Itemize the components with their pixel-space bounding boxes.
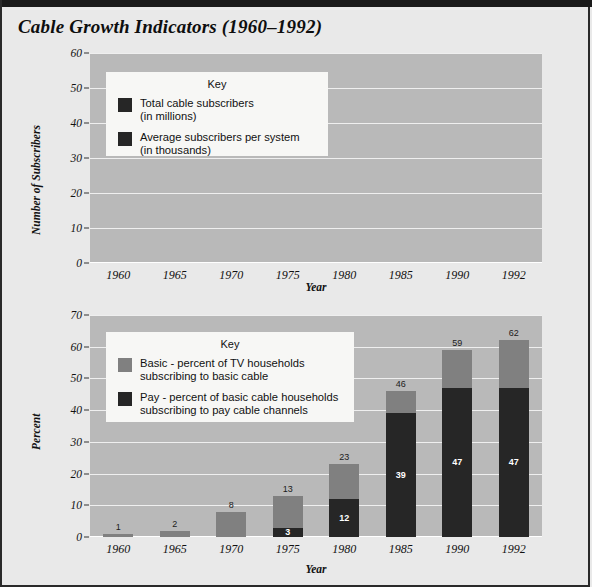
legend-label-total-cable-subscribers: Total cable subscribers [140, 97, 254, 110]
gridline [90, 505, 542, 506]
legend-percent: Key Basic - percent of TV households sub… [106, 332, 354, 422]
x-axis-tick: 1975 [276, 542, 300, 557]
bar-segment-basic [216, 512, 246, 537]
legend-item-average-subscribers-per-system: Average subscribers per system (in thous… [106, 131, 328, 158]
x-axis-tick: 1980 [332, 542, 356, 557]
bar-value-label-basic: 59 [452, 338, 462, 348]
y-axis-tick: 20 [71, 468, 83, 480]
bar-stacked: 3 [273, 496, 303, 537]
y-axis-tick: 10 [71, 499, 83, 511]
bar-value-label-basic: 62 [509, 328, 519, 338]
y-axis-tick-mark [84, 441, 89, 442]
legend-swatch-average-subscribers-per-system [118, 132, 132, 146]
bar-value-label-pay: 3 [285, 527, 290, 537]
bar-value-label-basic: 1 [116, 522, 121, 532]
x-axis-tick: 1965 [163, 542, 187, 557]
x-axis-tick: 1992 [502, 542, 526, 557]
y-axis-tick: 0 [76, 531, 82, 543]
bar-value-label-pay: 39 [396, 470, 406, 480]
legend-item-pay: Pay - percent of basic cable households … [106, 391, 354, 418]
x-axis-tick: 1985 [389, 542, 413, 557]
y-axis-tick: 40 [71, 404, 83, 416]
bar-stacked: 47 [499, 340, 529, 537]
bar-segment-pay: 47 [442, 388, 472, 537]
x-axis-label-percent: Year [305, 563, 326, 575]
bar-segment-pay: 39 [386, 413, 416, 537]
y-axis-tick-mark [84, 315, 89, 316]
legend-title-subscribers: Key [106, 78, 328, 90]
y-axis-tick: 30 [71, 436, 83, 448]
bar-value-label-basic: 13 [283, 484, 293, 494]
bar-stacked [103, 534, 133, 537]
bar-value-label-pay: 47 [452, 457, 462, 467]
legend-sublabel-pay: subscribing to pay cable channels [140, 404, 338, 417]
legend-title-percent: Key [106, 338, 354, 350]
legend-swatch-basic [118, 358, 132, 372]
bar-segment-basic [160, 531, 190, 537]
bar-value-label-basic: 23 [339, 452, 349, 462]
y-axis-tick-mark [84, 505, 89, 506]
legend-label-average-subscribers-per-system: Average subscribers per system [140, 131, 300, 144]
legend-sublabel-average-subscribers-per-system: (in thousands) [140, 144, 300, 157]
legend-subscribers: Key Total cable subscribers (in millions… [106, 72, 328, 156]
y-axis-tick: 60 [71, 341, 83, 353]
bar-stacked [160, 531, 190, 537]
y-axis-tick-mark [84, 346, 89, 347]
legend-swatch-pay [118, 392, 132, 406]
gridline [90, 315, 542, 316]
legend-label-basic: Basic - percent of TV households [140, 357, 305, 370]
y-axis-tick-mark [84, 410, 89, 411]
gridline [90, 442, 542, 443]
bar-stacked: 39 [386, 391, 416, 537]
y-axis-tick-mark [84, 537, 89, 538]
bar-stacked [216, 512, 246, 537]
bar-value-label-pay: 47 [509, 457, 519, 467]
gridline [90, 474, 542, 475]
bar-segment-basic [103, 534, 133, 537]
legend-swatch-total-cable-subscribers [118, 98, 132, 112]
bar-segment-pay: 47 [499, 388, 529, 537]
legend-sublabel-basic: subscribing to basic cable [140, 370, 305, 383]
x-axis-tick: 1970 [219, 542, 243, 557]
bar-value-label-basic: 46 [396, 379, 406, 389]
bar-stacked: 12 [329, 464, 359, 537]
legend-label-pay: Pay - percent of basic cable households [140, 391, 338, 404]
legend-sublabel-total-cable-subscribers: (in millions) [140, 110, 254, 123]
legend-item-basic: Basic - percent of TV households subscri… [106, 357, 354, 384]
bar-segment-pay: 3 [273, 528, 303, 538]
y-axis-tick: 50 [71, 372, 83, 384]
y-axis-label-percent: Percent [30, 414, 42, 450]
bar-value-label-pay: 12 [339, 513, 349, 523]
x-axis-tick: 1990 [445, 542, 469, 557]
x-axis-baseline [90, 536, 542, 537]
bar-stacked: 47 [442, 350, 472, 537]
x-axis-tick: 1960 [106, 542, 130, 557]
bar-segment-pay: 12 [329, 499, 359, 537]
bar-value-label-basic: 2 [172, 519, 177, 529]
y-axis-tick-mark [84, 473, 89, 474]
legend-item-total-cable-subscribers: Total cable subscribers (in millions) [106, 97, 328, 124]
y-axis-tick: 70 [71, 309, 83, 321]
bar-value-label-basic: 8 [229, 500, 234, 510]
y-axis-tick-mark [84, 378, 89, 379]
